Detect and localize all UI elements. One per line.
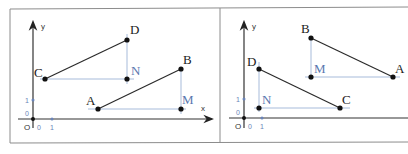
x-zero-tick: 0 — [37, 124, 41, 131]
label-N: N — [262, 92, 272, 107]
point-M — [178, 106, 183, 111]
point-D — [256, 66, 261, 71]
x-axis-label: x — [201, 104, 205, 113]
y-zero-tick: 0 — [236, 109, 240, 116]
label-A: A — [86, 93, 96, 108]
y-unit-dot — [243, 98, 246, 101]
frame-top — [10, 7, 408, 9]
y-unit-tick: 1 — [236, 96, 240, 103]
point-B — [308, 35, 313, 40]
point-M — [308, 74, 313, 79]
x-unit-dot — [51, 118, 54, 121]
label-C: C — [342, 92, 351, 107]
label-M: M — [314, 61, 326, 76]
x-unit-dot — [261, 117, 264, 120]
left-panel: y x O 0 0 1 1 C D N A B M — [18, 22, 212, 132]
origin-point — [242, 116, 246, 120]
label-D: D — [130, 22, 139, 37]
label-M: M — [182, 92, 194, 107]
right-panel: y O 0 0 1 1 B A M D C N — [229, 21, 408, 131]
label-A: A — [395, 61, 405, 76]
label-D: D — [247, 54, 256, 69]
origin-label: O — [235, 122, 241, 131]
origin-point — [31, 117, 35, 121]
y-zero-tick: 0 — [25, 110, 29, 117]
label-B: B — [183, 52, 192, 67]
point-N — [256, 105, 261, 110]
y-unit-dot — [32, 99, 35, 102]
label-N: N — [131, 63, 141, 78]
point-C — [42, 76, 47, 81]
point-A — [95, 106, 100, 111]
label-B: B — [301, 21, 310, 36]
origin-label: O — [24, 123, 30, 132]
x-unit-tick: 1 — [50, 124, 54, 131]
y-unit-tick: 1 — [25, 97, 29, 104]
y-axis-label: y — [252, 22, 256, 31]
diagram-canvas: y x O 0 0 1 1 C D N A B M — [0, 0, 408, 154]
label-C: C — [34, 65, 43, 80]
point-D — [124, 37, 129, 42]
frame-bottom — [10, 142, 408, 143]
x-zero-tick: 0 — [248, 123, 252, 130]
x-unit-tick: 1 — [260, 123, 264, 130]
y-axis-label: y — [41, 22, 45, 31]
point-N — [124, 76, 129, 81]
segment-CD — [45, 40, 127, 79]
point-B — [178, 66, 183, 71]
